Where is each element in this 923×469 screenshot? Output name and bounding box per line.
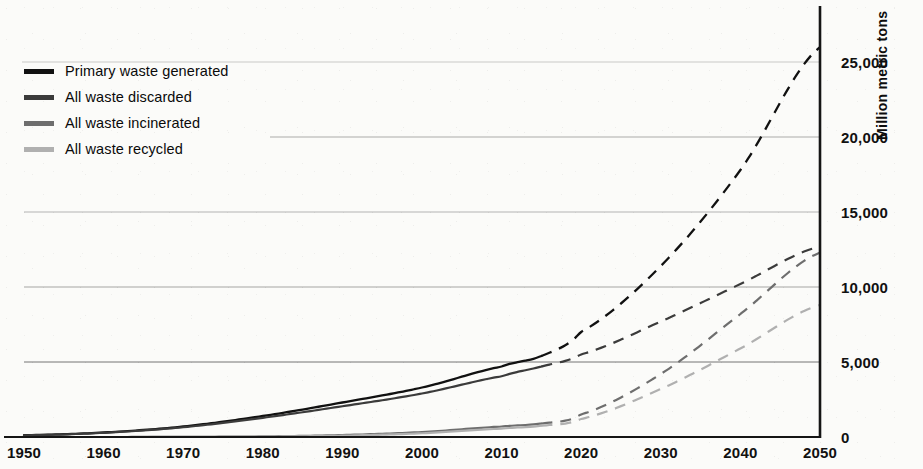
legend-item[interactable]: All waste discarded <box>24 88 229 106</box>
x-tick-1970: 1970 <box>166 444 200 461</box>
series-line-all-waste-incinerated-projected <box>541 253 820 424</box>
x-tick-1990: 1990 <box>325 444 359 461</box>
legend-swatch-icon <box>24 121 54 126</box>
x-tick-2020: 2020 <box>564 444 598 461</box>
y-tick-15000: 15,000 <box>841 204 888 221</box>
chart-legend: Primary waste generatedAll waste discard… <box>24 62 229 158</box>
x-tick-2030: 2030 <box>644 444 678 461</box>
series-line-all-waste-discarded-projected <box>541 247 820 367</box>
x-tick-1980: 1980 <box>246 444 280 461</box>
x-tick-1960: 1960 <box>87 444 121 461</box>
legend-label: All waste discarded <box>65 89 192 105</box>
x-tick-2000: 2000 <box>405 444 439 461</box>
x-tick-1950: 1950 <box>7 444 41 461</box>
legend-item[interactable]: Primary waste generated <box>24 62 229 80</box>
legend-swatch-icon <box>24 95 54 100</box>
chart-container: 1950196019701980199020002010202020302040… <box>0 0 923 469</box>
x-tick-2050: 2050 <box>803 444 837 461</box>
x-tick-2040: 2040 <box>723 444 757 461</box>
y-tick-0: 0 <box>841 429 850 446</box>
series-line-primary-waste-generated-projected <box>541 47 820 356</box>
legend-label: All waste incinerated <box>65 115 200 131</box>
legend-swatch-icon <box>24 69 54 74</box>
y-tick-5000: 5,000 <box>841 354 880 371</box>
x-tick-2010: 2010 <box>485 444 519 461</box>
legend-item[interactable]: All waste incinerated <box>24 114 229 132</box>
legend-label: All waste recycled <box>65 141 183 157</box>
y-tick-10000: 10,000 <box>841 279 888 296</box>
series-line-primary-waste-generated-historical <box>24 356 541 435</box>
legend-label: Primary waste generated <box>65 63 229 79</box>
series-line-all-waste-recycled-projected <box>541 305 820 426</box>
y-axis-title: Million metric tons <box>874 0 890 140</box>
legend-swatch-icon <box>24 147 54 152</box>
legend-item[interactable]: All waste recycled <box>24 140 229 158</box>
